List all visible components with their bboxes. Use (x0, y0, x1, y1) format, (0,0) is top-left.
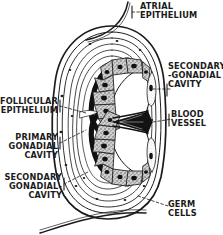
anatomical-figure: ATRIAL EPITHELIUM SECONDARY -GONADIAL CA… (0, 0, 223, 235)
label-atrial-epithelium: ATRIAL EPITHELIUM (140, 2, 197, 20)
label-blood-vessel: BLOOD VESSEL (171, 110, 206, 128)
label-secondary-gonadial-cavity-left: SECONDARY GONADIAL- CAVITY (0, 173, 62, 201)
label-primary-gonadial-cavity: PRIMARY GONADIAL CAVITY (0, 133, 58, 161)
label-secondary-gonadial-cavity-right: SECONDARY -GONADIAL CAVITY (168, 62, 223, 90)
label-follicular-epithelium: FOLLICULAR EPITHELIUM (0, 97, 58, 115)
label-germ-cells: GERM CELLS (168, 200, 197, 218)
